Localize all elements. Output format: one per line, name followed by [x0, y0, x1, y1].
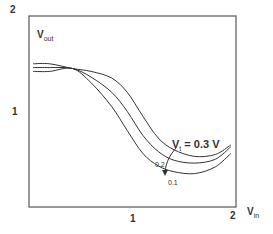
x-tick-1: 1	[130, 213, 136, 224]
curve-label-0.2: 0.2	[155, 161, 165, 168]
x-axis-label: Vin	[247, 206, 259, 219]
y-tick-1: 1	[12, 106, 18, 117]
vt-annotation: Vt = 0.3 V	[172, 138, 220, 152]
plot-frame	[29, 16, 236, 207]
y-tick-2: 2	[10, 4, 16, 15]
x-tick-2: 2	[230, 210, 236, 221]
x-label-sub: in	[254, 212, 259, 219]
curve-label-0.1: 0.1	[168, 179, 178, 186]
ann-rest: = 0.3 V	[181, 138, 219, 150]
y-label-sub: out	[44, 35, 54, 42]
curves	[33, 63, 231, 173]
curve-0.1	[33, 68, 231, 174]
x-label-main: V	[247, 206, 254, 217]
y-axis-label: Vout	[37, 29, 53, 42]
y-label-main: V	[37, 29, 44, 40]
arrow-head-icon	[162, 170, 168, 176]
